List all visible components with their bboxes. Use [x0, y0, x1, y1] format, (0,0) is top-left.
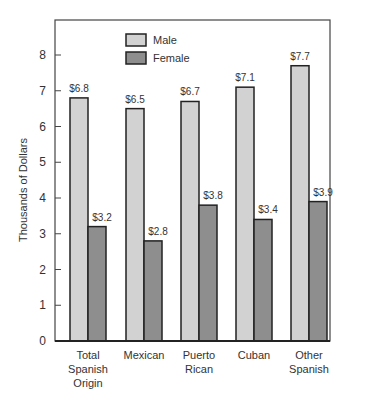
y-tick-label: 8	[39, 48, 46, 62]
bar-chart: 012345678 Thousands of Dollars $6.8$6.5$…	[0, 0, 368, 406]
x-tick-label: PuertoRican	[183, 349, 215, 375]
legend-label-female: Female	[153, 52, 190, 64]
bar-female	[199, 205, 217, 341]
data-label-female: $3.9	[313, 187, 333, 198]
y-tick-label: 5	[39, 155, 46, 169]
bars: $6.8$6.5$6.7$7.1$7.7$3.2$2.8$3.8$3.4$3.9	[69, 51, 333, 341]
data-label-female: $3.8	[203, 190, 223, 201]
bar-female	[309, 202, 327, 341]
data-label-female: $2.8	[148, 226, 168, 237]
bar-female	[144, 241, 162, 341]
data-label-female: $3.4	[258, 204, 278, 215]
legend-swatch-male	[126, 34, 146, 46]
data-label-female: $3.2	[92, 212, 112, 223]
y-tick-label: 3	[39, 227, 46, 241]
y-tick-label: 1	[39, 298, 46, 312]
y-tick-label: 6	[39, 120, 46, 134]
y-axis-label: Thousands of Dollars	[17, 138, 29, 242]
bar-male	[236, 87, 254, 341]
bar-female	[88, 227, 106, 341]
data-label-male: $6.5	[125, 94, 145, 105]
x-tick-label: TotalSpanishOrigin	[68, 349, 108, 389]
data-label-male: $7.7	[290, 51, 310, 62]
bar-male	[126, 109, 144, 341]
y-axis: 012345678	[39, 48, 61, 348]
data-label-male: $6.8	[69, 83, 89, 94]
bar-male	[70, 98, 88, 341]
data-label-male: $6.7	[180, 86, 200, 97]
legend-label-male: Male	[153, 34, 177, 46]
x-axis-labels: TotalSpanishOriginMexicanPuertoRicanCuba…	[68, 349, 329, 389]
legend-swatch-female	[126, 52, 146, 64]
y-tick-label: 0	[39, 334, 46, 348]
legend: MaleFemale	[126, 34, 190, 64]
y-tick-label: 4	[39, 191, 46, 205]
bar-male	[291, 66, 309, 341]
x-tick-label: OtherSpanish	[289, 349, 329, 375]
x-tick-label: Cuban	[238, 349, 270, 361]
x-tick-label: Mexican	[124, 349, 165, 361]
y-tick-label: 7	[39, 84, 46, 98]
data-label-male: $7.1	[235, 72, 255, 83]
bar-female	[254, 219, 272, 341]
y-tick-label: 2	[39, 263, 46, 277]
bar-male	[181, 101, 199, 341]
